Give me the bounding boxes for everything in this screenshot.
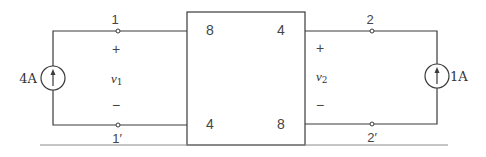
right-bottom-wire <box>305 88 437 124</box>
v2-plus-sign: + <box>316 40 324 56</box>
box-port2-top-label: 4 <box>277 22 285 38</box>
source-1a-label: 1A <box>450 69 468 84</box>
terminal-1-label: 1 <box>111 12 118 27</box>
terminal-1-node <box>116 29 120 33</box>
v2-minus-sign: − <box>316 97 324 113</box>
v1-plus-sign: + <box>112 41 120 57</box>
circuit-diagram: 4A 1 1′ + − v1 8 4 4 8 2 2′ + − v2 1A <box>0 0 486 157</box>
right-top-wire <box>305 31 437 64</box>
terminal-2-node <box>370 29 374 33</box>
terminal-2-label: 2 <box>366 12 373 27</box>
terminal-1prime-label: 1′ <box>112 131 122 146</box>
v1-voltage-label: v1 <box>111 71 123 87</box>
source-4a-label: 4A <box>19 71 37 86</box>
v1-minus-sign: − <box>112 97 120 113</box>
terminal-2prime-node <box>370 122 374 126</box>
terminal-1prime-node <box>116 123 120 127</box>
terminal-2prime-label: 2′ <box>367 130 377 145</box>
box-port1-bottom-label: 4 <box>206 116 214 132</box>
box-port2-bottom-label: 8 <box>277 116 285 132</box>
v2-voltage-label: v2 <box>316 69 328 85</box>
two-port-network-box <box>187 12 305 145</box>
box-port1-top-label: 8 <box>206 22 214 38</box>
